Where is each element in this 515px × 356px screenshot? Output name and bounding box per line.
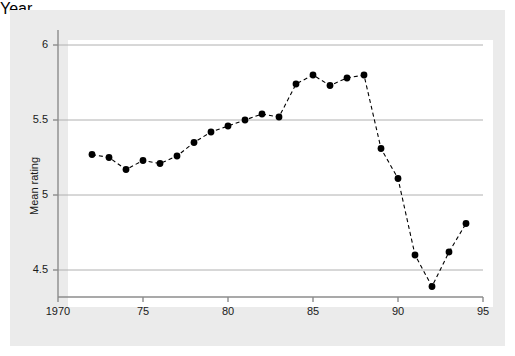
- y-axis-tick-label: 6: [8, 38, 48, 50]
- x-axis-tick-label: 95: [453, 305, 513, 317]
- data-point-marker: [463, 220, 470, 227]
- y-axis-tick-label: 5.5: [8, 113, 48, 125]
- data-point-marker: [157, 160, 164, 167]
- data-point-marker: [344, 75, 351, 82]
- x-axis-tick-label: 80: [198, 305, 258, 317]
- data-point-marker: [89, 151, 96, 158]
- data-point-marker: [310, 72, 317, 79]
- data-point-marker: [293, 81, 300, 88]
- data-point-marker: [412, 252, 419, 259]
- x-axis-tick-label: 1970: [28, 305, 88, 317]
- chart-figure: 4.555.5619707580859095Mean ratingYear: [0, 0, 515, 356]
- x-axis-tick-label: 90: [368, 305, 428, 317]
- x-axis-tick-label: 85: [283, 305, 343, 317]
- y-axis-title: Mean rating: [28, 157, 40, 215]
- x-axis-tick-label: 75: [113, 305, 173, 317]
- data-point-marker: [327, 82, 334, 89]
- data-point-marker: [446, 249, 453, 256]
- data-point-marker: [123, 166, 130, 173]
- data-point-marker: [276, 114, 283, 121]
- y-axis-tick-label: 4.5: [8, 263, 48, 275]
- data-point-marker: [208, 129, 215, 136]
- data-point-marker: [395, 175, 402, 182]
- series-line: [92, 75, 466, 287]
- data-point-marker: [174, 153, 181, 160]
- data-point-marker: [429, 283, 436, 290]
- chart-canvas: [0, 0, 515, 356]
- data-point-marker: [140, 157, 147, 164]
- data-point-marker: [106, 154, 113, 161]
- data-point-marker: [191, 139, 198, 146]
- data-point-marker: [361, 72, 368, 79]
- data-point-marker: [378, 145, 385, 152]
- data-point-marker: [259, 111, 266, 118]
- data-point-marker: [242, 117, 249, 124]
- data-point-marker: [225, 123, 232, 130]
